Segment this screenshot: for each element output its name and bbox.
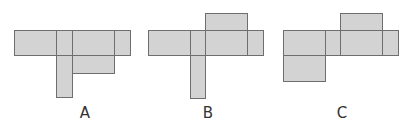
net-face (325, 30, 341, 56)
net-face (72, 55, 115, 74)
net-diagrams: A B C (0, 0, 412, 127)
figure-b-label: B (193, 104, 223, 122)
net-face (114, 30, 131, 56)
net-face (382, 30, 399, 56)
net-face (205, 13, 248, 31)
net-face (56, 55, 73, 98)
net-face (283, 30, 326, 56)
net-face (190, 30, 206, 56)
net-face (190, 55, 206, 99)
net-face (148, 30, 191, 56)
net-face (283, 55, 326, 82)
figure-c-label: C (327, 104, 357, 122)
net-face (14, 30, 57, 56)
net-face (56, 30, 73, 56)
net-face (340, 30, 383, 56)
net-face (72, 30, 115, 56)
net-face (340, 13, 383, 31)
net-face (205, 30, 248, 56)
net-face (247, 30, 264, 56)
figure-a-label: A (70, 104, 100, 122)
